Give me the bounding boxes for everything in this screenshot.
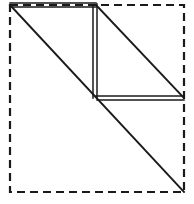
geometric-line-diagram [0,0,194,204]
figure-canvas [0,0,194,204]
